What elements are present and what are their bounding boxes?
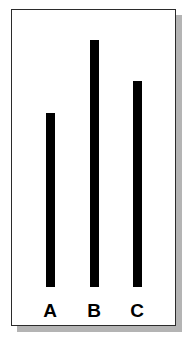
bar-c <box>133 81 142 287</box>
bar-a <box>46 113 55 287</box>
bar-label-b: B <box>83 301 105 320</box>
bar-label-a: A <box>39 301 61 320</box>
chart-panel: A B C <box>11 9 176 326</box>
plot-area: A B C <box>12 10 175 325</box>
bar-label-c: C <box>126 301 148 320</box>
bar-b <box>90 40 99 287</box>
bar-chart-figure: A B C <box>0 0 192 344</box>
